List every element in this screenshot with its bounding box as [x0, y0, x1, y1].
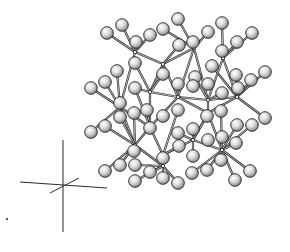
atom-sphere [111, 65, 124, 78]
atom-sphere [144, 122, 157, 135]
atom-sphere [157, 172, 170, 185]
atom-sphere [215, 105, 228, 118]
bond-junction [220, 148, 223, 151]
atom-sphere [230, 69, 243, 82]
atom-sphere [202, 134, 215, 147]
atom-sphere [216, 131, 229, 144]
atom-sphere [99, 76, 112, 89]
atom-sphere [101, 27, 114, 40]
atom-sphere [215, 154, 228, 167]
atom-sphere [206, 60, 219, 73]
atom-sphere [128, 145, 141, 158]
atom-sphere [216, 17, 229, 30]
atom-sphere [259, 66, 272, 79]
atom-sphere [85, 126, 98, 139]
atom-sphere [128, 107, 141, 120]
atom-sphere [157, 68, 170, 81]
atom-sphere [172, 177, 185, 190]
atom-sphere [216, 45, 229, 58]
atom-sphere [114, 111, 127, 124]
atom-sphere [246, 27, 259, 40]
atom-sphere [141, 104, 154, 117]
atom-sphere [157, 152, 170, 165]
atom-sphere [129, 159, 142, 172]
stray-mark [6, 218, 8, 220]
atom-sphere [85, 82, 98, 95]
atom-sphere [202, 26, 215, 39]
atom-sphere [187, 150, 200, 163]
stray-dot [6, 218, 8, 220]
atom-sphere [99, 120, 112, 133]
atom-sphere [244, 165, 257, 178]
atom-sphere [114, 159, 127, 172]
bond-junction [133, 50, 136, 53]
atom-sphere [129, 57, 142, 70]
atom-sphere [144, 29, 157, 42]
atom-sphere [157, 23, 170, 36]
atom-sphere [201, 164, 214, 177]
atom-sphere [129, 82, 142, 95]
atom-sphere [259, 112, 272, 125]
atom-sphere [129, 175, 142, 188]
bond-junction [148, 90, 151, 93]
bond-junction [161, 164, 164, 167]
bond-junction [176, 95, 179, 98]
atom-sphere [172, 127, 185, 140]
atom-sphere [173, 140, 186, 153]
atom-sphere [231, 36, 244, 49]
atom-sphere [231, 119, 244, 132]
atom-sphere [116, 19, 129, 32]
atom-sphere [173, 39, 186, 52]
crystal-lattice-figure [0, 0, 290, 252]
atom-sphere [245, 74, 258, 87]
bond-highlight [150, 92, 178, 97]
atom-sphere [172, 104, 185, 117]
atom-sphere [172, 13, 185, 26]
coordinate-axes [20, 140, 107, 232]
atom-sphere [202, 78, 215, 91]
atom-sphere [187, 80, 200, 93]
bond-junction [161, 62, 164, 65]
atom-sphere [229, 174, 242, 187]
atom-sphere [186, 167, 199, 180]
atom-sphere [216, 87, 229, 100]
atom-sphere [172, 78, 185, 91]
bond-junction [191, 138, 194, 141]
atom-sphere [157, 110, 170, 123]
atom-sphere [187, 36, 200, 49]
atom-sphere [114, 97, 127, 110]
atom-sphere [230, 137, 243, 150]
atom-sphere [201, 110, 214, 123]
atom-sphere [246, 119, 259, 132]
bond-junction [235, 95, 238, 98]
atom-sphere [144, 166, 157, 179]
atom-sphere [130, 36, 143, 49]
bond-junction [206, 98, 209, 101]
atom-sphere [187, 123, 200, 136]
atom-sphere [232, 82, 245, 95]
atom-sphere [99, 165, 112, 178]
